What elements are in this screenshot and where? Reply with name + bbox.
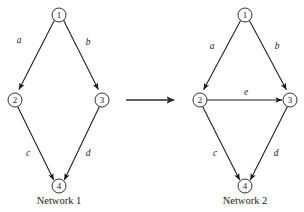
node-4-label: 4: [57, 181, 62, 191]
edge-c-network-2: [203, 107, 240, 181]
edge-label-a-network-1: a: [17, 35, 22, 45]
node-1-network-2: 1: [238, 8, 252, 22]
network-1: 1 2 3 4 a b c d Network 1: [8, 8, 109, 206]
edge-label-d-network-1: d: [86, 148, 91, 158]
node-3-label: 3: [288, 95, 293, 105]
node-4-label: 4: [243, 181, 248, 191]
node-2-network-2: 2: [193, 93, 207, 107]
edge-b-network-2: [249, 21, 286, 90]
network-transformation-figure: 1 2 3 4 a b c d Network 1: [0, 0, 304, 212]
node-3-network-2: 3: [283, 93, 297, 107]
edge-label-d-network-2: d: [274, 148, 279, 158]
edge-d-network-2: [250, 107, 287, 181]
node-2-label: 2: [13, 95, 18, 105]
edge-label-a-network-2: a: [210, 41, 215, 51]
edge-d-network-1: [64, 107, 99, 181]
edge-a-network-1: [19, 20, 54, 89]
edge-label-e-network-2: e: [244, 87, 248, 97]
edge-c-network-1: [18, 107, 54, 181]
edge-label-c-network-2: c: [213, 148, 218, 158]
node-1-network-1: 1: [52, 8, 66, 22]
edge-label-b-network-2: b: [275, 41, 280, 51]
network-2: 1 2 3 4 a b e c d Network 2: [193, 8, 297, 206]
edge-b-network-1: [64, 20, 99, 89]
network-2-caption: Network 2: [223, 195, 268, 206]
edge-a-network-2: [204, 21, 241, 90]
node-1-label: 1: [243, 10, 248, 20]
node-3-network-1: 3: [95, 93, 109, 107]
node-4-network-2: 4: [238, 179, 252, 193]
node-2-network-1: 2: [8, 93, 22, 107]
network-1-caption: Network 1: [37, 195, 82, 206]
edge-label-b-network-1: b: [86, 37, 91, 47]
node-4-network-1: 4: [52, 179, 66, 193]
node-3-label: 3: [100, 95, 105, 105]
edge-label-c-network-1: c: [26, 148, 31, 158]
node-1-label: 1: [57, 10, 62, 20]
node-2-label: 2: [198, 95, 203, 105]
